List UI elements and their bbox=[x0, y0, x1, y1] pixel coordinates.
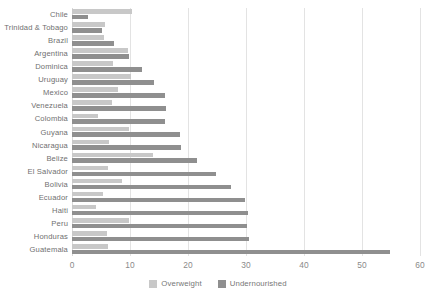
y-axis-label-chile: Chile bbox=[0, 10, 68, 19]
bar-group bbox=[72, 34, 420, 47]
bar-group bbox=[72, 217, 420, 230]
bar-group bbox=[72, 178, 420, 191]
chart-legend: OverweightUndernourished bbox=[0, 279, 436, 288]
bar-group bbox=[72, 191, 420, 204]
bar-chart: ChileTrinidad & TobagoBrazilArgentinaDom… bbox=[0, 0, 436, 298]
x-axis-tick-60: 60 bbox=[415, 260, 424, 270]
bar-overweight bbox=[72, 74, 131, 79]
bar-overweight bbox=[72, 179, 122, 184]
y-axis-label-guyana: Guyana bbox=[0, 128, 68, 137]
bar-overweight bbox=[72, 140, 109, 145]
y-axis-label-el-salvador: El Salvador bbox=[0, 167, 68, 176]
plot-area bbox=[72, 8, 420, 256]
bar-overweight bbox=[72, 231, 107, 236]
gridline-60 bbox=[420, 8, 421, 256]
y-axis-label-dominica: Dominica bbox=[0, 62, 68, 71]
legend-item-overweight[interactable]: Overweight bbox=[149, 279, 201, 288]
bar-group bbox=[72, 21, 420, 34]
bar-undernourished bbox=[72, 132, 180, 137]
bar-undernourished bbox=[72, 198, 245, 203]
bar-group bbox=[72, 112, 420, 125]
bar-undernourished bbox=[72, 237, 249, 242]
bar-group bbox=[72, 139, 420, 152]
bar-undernourished bbox=[72, 15, 88, 20]
legend-swatch-undernourished-icon bbox=[218, 280, 226, 288]
bar-overweight bbox=[72, 205, 96, 210]
bar-group bbox=[72, 47, 420, 60]
bar-undernourished bbox=[72, 80, 154, 85]
bar-group bbox=[72, 152, 420, 165]
y-axis-label-peru: Peru bbox=[0, 219, 68, 228]
x-axis-tick-20: 20 bbox=[183, 260, 192, 270]
bar-undernourished bbox=[72, 145, 181, 150]
y-axis-category-labels: ChileTrinidad & TobagoBrazilArgentinaDom… bbox=[0, 8, 68, 256]
y-axis-label-ecuador: Ecuador bbox=[0, 193, 68, 202]
bar-group bbox=[72, 230, 420, 243]
y-axis-label-belize: Belize bbox=[0, 154, 68, 163]
bar-overweight bbox=[72, 100, 112, 105]
bar-group bbox=[72, 125, 420, 138]
bar-overweight bbox=[72, 218, 129, 223]
x-axis-tick-10: 10 bbox=[125, 260, 134, 270]
bar-group bbox=[72, 86, 420, 99]
bar-overweight bbox=[72, 22, 105, 27]
bar-undernourished bbox=[72, 67, 142, 72]
y-axis-label-guatemala: Guatemala bbox=[0, 245, 68, 254]
x-axis-tick-30: 30 bbox=[241, 260, 250, 270]
y-axis-label-mexico: Mexico bbox=[0, 88, 68, 97]
bar-undernourished bbox=[72, 250, 390, 255]
bar-overweight bbox=[72, 61, 113, 66]
bar-overweight bbox=[72, 9, 132, 14]
bar-overweight bbox=[72, 153, 153, 158]
y-axis-label-honduras: Honduras bbox=[0, 232, 68, 241]
x-axis: 0102030405060 bbox=[72, 256, 420, 274]
bar-group bbox=[72, 8, 420, 21]
bar-undernourished bbox=[72, 185, 231, 190]
bar-group bbox=[72, 204, 420, 217]
legend-swatch-overweight-icon bbox=[149, 280, 157, 288]
bar-overweight bbox=[72, 87, 118, 92]
y-axis-label-brazil: Brazil bbox=[0, 36, 68, 45]
bar-overweight bbox=[72, 35, 104, 40]
bar-undernourished bbox=[72, 41, 114, 46]
y-axis-label-bolivia: Bolivia bbox=[0, 180, 68, 189]
legend-label-undernourished: Undernourished bbox=[230, 279, 287, 288]
x-axis-tick-0: 0 bbox=[70, 260, 75, 270]
legend-item-undernourished[interactable]: Undernourished bbox=[218, 279, 287, 288]
bar-group bbox=[72, 165, 420, 178]
bar-rows bbox=[72, 8, 420, 256]
bar-overweight bbox=[72, 244, 108, 249]
bar-undernourished bbox=[72, 224, 247, 229]
x-axis-tick-40: 40 bbox=[299, 260, 308, 270]
bar-undernourished bbox=[72, 28, 102, 33]
y-axis-label-venezuela: Venezuela bbox=[0, 101, 68, 110]
bar-undernourished bbox=[72, 54, 129, 59]
bar-undernourished bbox=[72, 172, 216, 177]
legend-label-overweight: Overweight bbox=[161, 279, 201, 288]
bar-overweight bbox=[72, 114, 98, 119]
bar-undernourished bbox=[72, 106, 166, 111]
bar-overweight bbox=[72, 166, 108, 171]
bar-overweight bbox=[72, 192, 103, 197]
bar-group bbox=[72, 60, 420, 73]
bar-undernourished bbox=[72, 93, 165, 98]
y-axis-label-haiti: Haiti bbox=[0, 206, 68, 215]
bar-overweight bbox=[72, 127, 129, 132]
x-axis-tick-50: 50 bbox=[357, 260, 366, 270]
bar-group bbox=[72, 99, 420, 112]
bar-undernourished bbox=[72, 119, 165, 124]
bar-group bbox=[72, 73, 420, 86]
y-axis-label-colombia: Colombia bbox=[0, 114, 68, 123]
y-axis-label-trinidad-tobago: Trinidad & Tobago bbox=[0, 23, 68, 32]
y-axis-label-argentina: Argentina bbox=[0, 49, 68, 58]
bar-undernourished bbox=[72, 211, 248, 216]
y-axis-label-nicaragua: Nicaragua bbox=[0, 141, 68, 150]
bar-group bbox=[72, 243, 420, 256]
bar-undernourished bbox=[72, 158, 197, 163]
y-axis-label-uruguay: Uruguay bbox=[0, 75, 68, 84]
bar-overweight bbox=[72, 48, 128, 53]
